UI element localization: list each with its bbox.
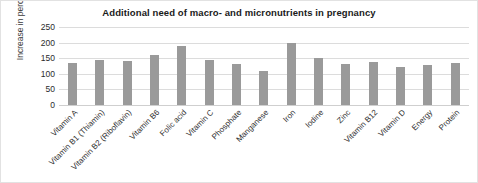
bar-slot <box>59 27 86 105</box>
y-axis-tick-label: 50 <box>46 84 55 94</box>
y-axis-tick-label: 200 <box>41 38 55 48</box>
chart-title: Additional need of macro- and micronutri… <box>1 7 477 18</box>
bar <box>451 63 460 105</box>
bar <box>314 58 323 105</box>
y-axis-tick-label: 250 <box>41 22 55 32</box>
y-axis-tick-labels: 050100150200250 <box>21 27 55 105</box>
bar <box>95 60 104 105</box>
y-axis-tick-label: 150 <box>41 53 55 63</box>
bar <box>341 64 350 105</box>
y-axis-tick-label: 0 <box>50 100 55 110</box>
bar <box>68 63 77 105</box>
bar <box>205 60 214 105</box>
y-axis-tick-label: 100 <box>41 69 55 79</box>
bar-slot <box>305 27 332 105</box>
x-axis-tick-labels: Vitamin AVitamin B1 (Thiamin)Vitamin B2 … <box>59 106 469 183</box>
bar-slot <box>332 27 359 105</box>
bar-slot <box>360 27 387 105</box>
bar <box>369 62 378 105</box>
chart-container: Additional need of macro- and micronutri… <box>1 1 477 182</box>
